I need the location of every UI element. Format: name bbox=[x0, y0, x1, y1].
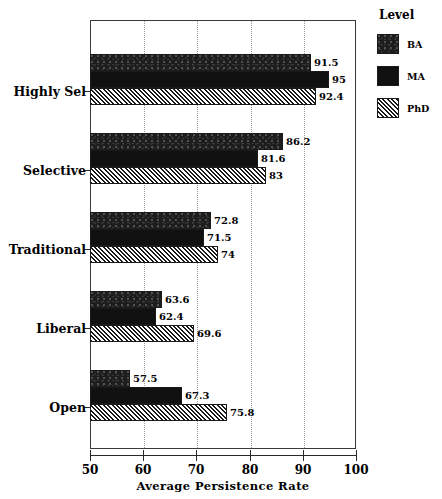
value-liberal-ma: 62.4 bbox=[159, 308, 183, 325]
x-tick-70 bbox=[196, 450, 197, 461]
bar-selective-ba bbox=[90, 133, 283, 150]
bar-open-ba bbox=[90, 370, 130, 387]
legend-item-ma: MA bbox=[377, 66, 442, 86]
legend-swatch-ba-icon bbox=[377, 34, 399, 54]
value-traditional-ma: 71.5 bbox=[207, 229, 231, 246]
x-tick-90 bbox=[303, 450, 304, 461]
value-open-ma: 67.3 bbox=[185, 387, 209, 404]
value-selective-phd: 83 bbox=[269, 167, 283, 184]
cat-label-liberal: Liberal bbox=[0, 321, 86, 336]
bar-liberal-ma bbox=[90, 308, 156, 325]
bar-open-phd bbox=[90, 404, 227, 421]
legend-label-phd: PhD bbox=[407, 103, 429, 114]
value-traditional-phd: 74 bbox=[221, 246, 235, 263]
value-liberal-phd: 69.6 bbox=[197, 325, 221, 342]
value-selective-ma: 81.6 bbox=[261, 150, 285, 167]
x-tick-label-90: 90 bbox=[283, 463, 323, 477]
legend-swatch-phd-icon bbox=[377, 98, 399, 118]
x-tick-60 bbox=[143, 450, 144, 461]
x-tick-label-50: 50 bbox=[70, 463, 110, 477]
legend-item-ba: BA bbox=[377, 34, 442, 54]
bar-open-ma bbox=[90, 387, 182, 404]
bar-highly-sel-phd bbox=[90, 88, 316, 105]
value-open-ba: 57.5 bbox=[133, 370, 157, 387]
legend-label-ma: MA bbox=[407, 71, 425, 82]
bar-liberal-phd bbox=[90, 325, 194, 342]
cat-label-traditional: Traditional bbox=[0, 242, 86, 257]
bars-layer: 91.5 95 92.4 86.2 81.6 83 72.8 71.5 74 6… bbox=[90, 20, 356, 449]
bar-chart: 91.5 95 92.4 86.2 81.6 83 72.8 71.5 74 6… bbox=[0, 0, 442, 499]
value-highly-sel-phd: 92.4 bbox=[319, 88, 343, 105]
legend-swatch-ma-icon bbox=[377, 66, 399, 86]
cat-label-highly-sel: Highly Sel bbox=[0, 84, 86, 99]
cat-label-open: Open bbox=[0, 400, 86, 415]
x-tick-label-70: 70 bbox=[176, 463, 216, 477]
bar-selective-ma bbox=[90, 150, 258, 167]
value-selective-ba: 86.2 bbox=[286, 133, 310, 150]
bar-highly-sel-ba bbox=[90, 54, 311, 71]
x-tick-label-100: 100 bbox=[336, 463, 376, 477]
value-open-phd: 75.8 bbox=[230, 404, 254, 421]
x-tick-80 bbox=[250, 450, 251, 461]
value-highly-sel-ba: 91.5 bbox=[314, 54, 338, 71]
value-traditional-ba: 72.8 bbox=[214, 212, 238, 229]
legend-item-phd: PhD bbox=[377, 98, 442, 118]
x-tick-50 bbox=[90, 450, 91, 461]
x-axis-title: Average Persistence Rate bbox=[90, 479, 356, 493]
bar-liberal-ba bbox=[90, 291, 162, 308]
bar-selective-phd bbox=[90, 167, 266, 184]
x-tick-label-80: 80 bbox=[230, 463, 270, 477]
bar-highly-sel-ma bbox=[90, 71, 329, 88]
legend-label-ba: BA bbox=[407, 39, 422, 50]
cat-label-selective: Selective bbox=[0, 163, 86, 178]
value-liberal-ba: 63.6 bbox=[165, 291, 189, 308]
legend-title: Level bbox=[379, 8, 442, 22]
value-highly-sel-ma: 95 bbox=[332, 71, 346, 88]
bar-traditional-ba bbox=[90, 212, 211, 229]
bar-traditional-phd bbox=[90, 246, 218, 263]
x-tick-100 bbox=[356, 450, 357, 461]
legend: Level BA MA PhD bbox=[377, 8, 442, 130]
x-axis-line bbox=[90, 455, 356, 456]
x-tick-label-60: 60 bbox=[123, 463, 163, 477]
bar-traditional-ma bbox=[90, 229, 204, 246]
